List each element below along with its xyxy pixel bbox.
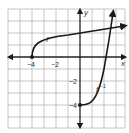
y-tick-neg4: −4 xyxy=(69,102,77,109)
x-tick-neg4: −4 xyxy=(27,61,35,68)
grid xyxy=(8,9,125,128)
f-start-point xyxy=(30,55,34,59)
f-label: f xyxy=(46,35,49,44)
x-tick-neg2: −2 xyxy=(51,61,59,68)
y-tick-neg2: −2 xyxy=(69,78,77,85)
f-inverse-start-point xyxy=(78,103,82,107)
f-inverse-superscript: −1 xyxy=(100,83,106,89)
coordinate-graph: x y f f −1 −4 −2 −2 −4 xyxy=(0,0,129,133)
